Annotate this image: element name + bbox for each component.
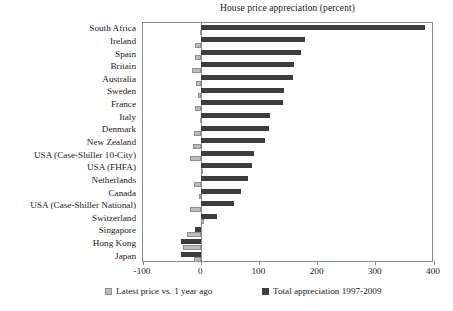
bar-latest-price [195, 55, 201, 60]
category-label: Switzerland [92, 213, 136, 223]
bar-total-appreciation [201, 88, 284, 93]
category-label: Denmark [102, 124, 136, 134]
bar-latest-price [193, 144, 201, 149]
bar-row [143, 137, 432, 150]
bar-latest-price [200, 30, 202, 35]
category-label: Singapore [99, 225, 136, 235]
bar-latest-price [195, 106, 201, 111]
bar-latest-price [200, 118, 202, 123]
category-label: Netherlands [92, 175, 136, 185]
bar-row [143, 36, 432, 49]
category-label: Hong Kong [93, 238, 136, 248]
bar-latest-price [192, 68, 201, 73]
bar-row [143, 86, 432, 99]
category-label: Sweden [107, 86, 136, 96]
x-axis-tick-label: 100 [252, 266, 266, 276]
x-axis-tick-label: -100 [134, 266, 151, 276]
bar-latest-price [196, 81, 201, 86]
dark-gray-swatch [262, 288, 269, 295]
legend-label-total-appreciation: Total appreciation 1997-2009 [273, 286, 382, 296]
category-label: France [111, 99, 136, 109]
bar-total-appreciation [181, 239, 201, 244]
x-axis-tick-label: 200 [310, 266, 324, 276]
bar-row [143, 111, 432, 124]
bar-total-appreciation [201, 176, 248, 181]
bar-latest-price [187, 232, 202, 237]
bar-row [143, 99, 432, 112]
chart-title: House price appreciation (percent) [142, 3, 433, 13]
house-price-appreciation-chart: House price appreciation (percent) South… [0, 0, 453, 311]
bar-row [143, 238, 432, 251]
bar-latest-price [199, 194, 201, 199]
bar-total-appreciation [201, 126, 269, 131]
x-axis-tick [259, 261, 260, 265]
bar-row [143, 175, 432, 188]
bar-latest-price [198, 93, 201, 98]
bar-row [143, 48, 432, 61]
x-axis-tick-labels: -1000100200300400 [142, 266, 433, 280]
category-label: Ireland [110, 36, 136, 46]
x-axis-tick-label: 300 [368, 266, 382, 276]
bar-row [143, 74, 432, 87]
bar-latest-price [195, 43, 201, 48]
x-axis-tick [143, 261, 144, 265]
bar-row [143, 61, 432, 74]
bar-latest-price [201, 219, 203, 224]
bar-row [143, 187, 432, 200]
bar-row [143, 162, 432, 175]
category-label: Canada [108, 188, 136, 198]
bar-row [143, 124, 432, 137]
light-gray-swatch [105, 288, 112, 295]
bar-latest-price [190, 207, 202, 212]
bar-row [143, 23, 432, 36]
bar-total-appreciation [201, 100, 283, 105]
bar-latest-price [194, 182, 202, 187]
bar-row [143, 200, 432, 213]
bar-total-appreciation [201, 138, 265, 143]
category-label: USA (Case-Shiller 10-City) [34, 150, 136, 160]
x-axis-tick-label: 400 [426, 266, 440, 276]
bar-total-appreciation [195, 227, 201, 232]
bar-total-appreciation [201, 201, 234, 206]
bar-total-appreciation [201, 50, 301, 55]
bar-row [143, 250, 432, 263]
x-axis-tick [317, 261, 318, 265]
x-axis-tick [375, 261, 376, 265]
x-axis-tick-label: 0 [198, 266, 203, 276]
bar-latest-price [201, 169, 203, 174]
bar-latest-price [194, 131, 201, 136]
category-label: USA (FHFA) [87, 162, 136, 172]
bar-latest-price [190, 156, 201, 161]
bar-total-appreciation [201, 214, 217, 219]
plot-area [142, 22, 433, 262]
category-axis-labels: South AfricaIrelandSpainBritainAustralia… [0, 22, 139, 262]
bar-total-appreciation [201, 25, 425, 30]
legend-label-latest-price: Latest price vs. 1 year ago [116, 286, 212, 296]
category-label: Spain [115, 49, 136, 59]
bar-row [143, 149, 432, 162]
bar-total-appreciation [201, 113, 270, 118]
category-label: Italy [119, 112, 136, 122]
chart-legend: Latest price vs. 1 year ago Total apprec… [0, 286, 453, 302]
bar-total-appreciation [201, 37, 305, 42]
plot-inner [143, 23, 432, 261]
bar-total-appreciation [201, 62, 294, 67]
bar-total-appreciation [201, 75, 293, 80]
bar-total-appreciation [201, 163, 252, 168]
x-axis-tick [434, 261, 435, 265]
bar-total-appreciation [201, 151, 254, 156]
category-label: South Africa [89, 23, 136, 33]
legend-item-total-appreciation: Total appreciation 1997-2009 [262, 286, 382, 296]
category-label: USA (Case-Shiller National) [30, 200, 136, 210]
category-label: Japan [115, 251, 136, 261]
bar-row [143, 212, 432, 225]
bar-total-appreciation [181, 252, 201, 257]
bar-latest-price [183, 245, 201, 250]
bar-total-appreciation [201, 189, 241, 194]
bar-row [143, 225, 432, 238]
legend-item-latest-price: Latest price vs. 1 year ago [105, 286, 212, 296]
category-label: Britain [110, 61, 136, 71]
x-axis-tick [201, 261, 202, 265]
category-label: New Zealand [87, 137, 136, 147]
category-label: Australia [102, 74, 136, 84]
